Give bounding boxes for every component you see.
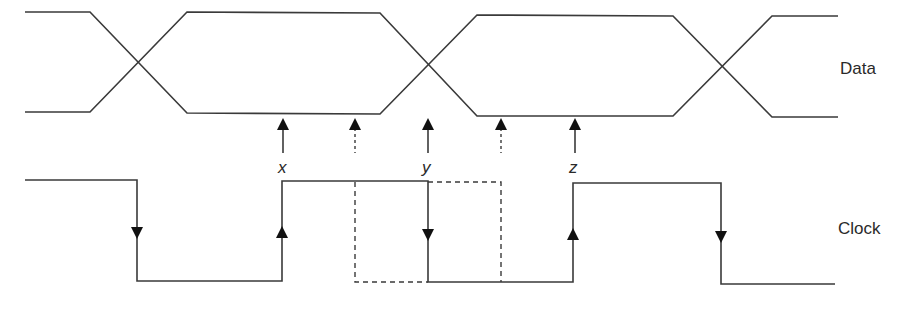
sample-arrow-z	[569, 118, 581, 153]
label-z: z	[568, 158, 578, 177]
sample-arrow-dashed-2	[495, 118, 507, 153]
data-upper-trace	[25, 12, 838, 117]
arrow-up-icon	[422, 118, 434, 130]
signal-label-data: Data	[840, 59, 876, 78]
signal-label-clock: Clock	[838, 219, 881, 238]
falling-edge-arrow-icon	[422, 229, 434, 241]
label-y: y	[421, 158, 432, 177]
falling-edge-arrow-icon	[715, 231, 727, 243]
timing-diagram: x y z Data Clock	[0, 0, 916, 310]
sample-arrow-x	[277, 118, 289, 153]
sample-arrow-dashed-1	[349, 118, 361, 153]
rising-edge-arrow-icon	[276, 226, 288, 238]
data-lower-trace	[25, 12, 838, 116]
data-signal	[25, 12, 838, 117]
rising-edge-arrow-icon	[567, 228, 579, 240]
arrow-up-icon	[277, 118, 289, 130]
clock-signal	[25, 180, 835, 284]
arrow-up-icon	[569, 118, 581, 130]
sample-arrows	[277, 118, 581, 153]
label-x: x	[277, 158, 287, 177]
sample-arrow-y	[422, 118, 434, 153]
falling-edge-arrow-icon	[131, 227, 143, 239]
arrow-up-icon	[349, 118, 361, 130]
arrow-up-icon	[495, 118, 507, 130]
